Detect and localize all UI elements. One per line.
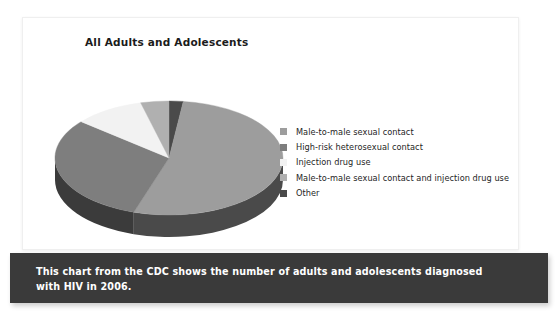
legend-item[interactable]: Other	[280, 186, 518, 201]
legend-swatch-icon	[280, 190, 287, 197]
legend: Male-to-male sexual contact High-risk he…	[280, 124, 518, 201]
legend-swatch-icon	[280, 159, 287, 166]
legend-item-label: High-risk heterosexual contact	[296, 143, 423, 151]
pie-chart-svg: OtherMale-to-male sexual contactHigh-ris…	[31, 70, 301, 245]
chart-panel: All Adults and Adolescents OtherMale-to-…	[22, 17, 519, 250]
legend-item[interactable]: Male-to-male sexual contact	[280, 124, 518, 139]
pie-chart: OtherMale-to-male sexual contactHigh-ris…	[31, 70, 301, 245]
legend-swatch-icon	[280, 174, 287, 181]
caption-bar: This chart from the CDC shows the number…	[10, 253, 548, 303]
pie-top-slices: OtherMale-to-male sexual contactHigh-ris…	[55, 101, 283, 215]
legend-item[interactable]: High-risk heterosexual contact	[280, 139, 518, 154]
legend-item-label: Male-to-male sexual contact and injectio…	[296, 174, 509, 182]
screenshot-root: All Adults and Adolescents OtherMale-to-…	[0, 0, 558, 316]
legend-swatch-icon	[280, 128, 287, 135]
legend-item[interactable]: Injection drug use	[280, 155, 518, 170]
page-title: All Adults and Adolescents	[85, 36, 248, 48]
legend-item[interactable]: Male-to-male sexual contact and injectio…	[280, 170, 518, 185]
caption-text: This chart from the CDC shows the number…	[36, 264, 506, 294]
legend-item-label: Other	[296, 189, 320, 197]
legend-swatch-icon	[280, 144, 287, 151]
legend-item-label: Injection drug use	[296, 158, 371, 166]
legend-item-label: Male-to-male sexual contact	[296, 128, 414, 136]
